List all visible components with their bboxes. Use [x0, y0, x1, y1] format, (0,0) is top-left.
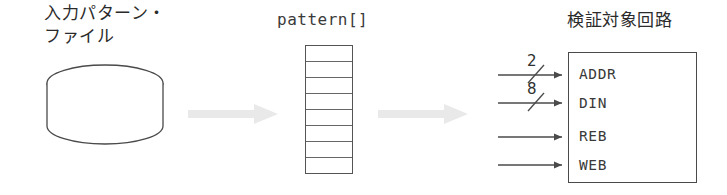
signal-arrow-reb	[498, 134, 562, 141]
diagram-canvas: 入力パターン・ ファイル pattern[] 検証対象回路 ADDR DIN R…	[0, 0, 727, 195]
bus-width-din: 8	[527, 80, 537, 98]
signal-arrow-web	[498, 162, 562, 169]
bus-width-addr: 2	[527, 52, 537, 70]
dut-input-signal-arrows	[0, 0, 727, 195]
